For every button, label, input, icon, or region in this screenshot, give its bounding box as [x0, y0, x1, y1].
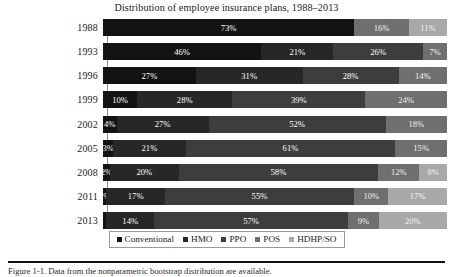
bar-segment[interactable]: 20%: [379, 212, 447, 229]
stacked-bar[interactable]: 4%27%52%18%: [103, 116, 447, 133]
figure-container: Distribution of employee insurance plans…: [0, 0, 453, 277]
bar-segment[interactable]: 4%: [103, 116, 117, 133]
bar-row: 20024%27%52%18%: [0, 116, 453, 133]
year-axis-label: 1993: [0, 46, 103, 57]
bar-segment[interactable]: 3%: [103, 140, 113, 157]
year-axis-label: 1988: [0, 22, 103, 33]
segment-value-label: 20%: [405, 216, 421, 226]
legend-swatch-icon: [255, 237, 260, 242]
bar-segment[interactable]: 58%: [179, 164, 379, 181]
segment-value-label: 27%: [142, 71, 158, 81]
legend-item[interactable]: POS: [255, 234, 280, 244]
legend-swatch-icon: [289, 237, 294, 242]
segment-value-label: 10%: [363, 191, 379, 201]
legend-item[interactable]: PPO: [221, 234, 246, 244]
caption-divider: [8, 261, 445, 263]
bar-segment[interactable]: 31%: [196, 67, 303, 84]
bar-row: 20111%17%55%10%17%: [0, 188, 453, 205]
year-axis-label: 1999: [0, 94, 103, 105]
bar-segment[interactable]: 2%: [103, 164, 110, 181]
segment-value-label: 27%: [155, 119, 171, 129]
bar-row: 201314%57%9%20%: [0, 212, 453, 229]
bar-rows: 198873%16%11%199346%21%26%7%199627%31%28…: [0, 19, 453, 229]
stacked-bar[interactable]: 10%28%39%24%: [103, 91, 447, 108]
bar-segment[interactable]: 15%: [395, 140, 447, 157]
figure-caption: Figure 1-1. Data from the nonparametric …: [8, 266, 445, 277]
legend-swatch-icon: [221, 237, 226, 242]
bar-segment[interactable]: 16%: [354, 19, 409, 36]
bar-row: 199346%21%26%7%: [0, 43, 453, 60]
year-axis-label: 2013: [0, 215, 103, 226]
bar-segment[interactable]: 7%: [423, 43, 447, 60]
segment-value-label: 28%: [177, 95, 193, 105]
segment-value-label: 61%: [283, 143, 299, 153]
segment-value-label: 10%: [112, 95, 128, 105]
bar-segment[interactable]: 57%: [154, 212, 348, 229]
bar-segment[interactable]: 28%: [137, 91, 232, 108]
bar-segment[interactable]: 26%: [333, 43, 422, 60]
year-axis-label: 2011: [0, 191, 103, 202]
bar-segment[interactable]: 27%: [103, 67, 196, 84]
bar-segment[interactable]: 8%: [419, 164, 447, 181]
segment-value-label: 73%: [221, 23, 237, 33]
segment-value-label: 58%: [271, 167, 287, 177]
bar-segment[interactable]: 52%: [209, 116, 386, 133]
stacked-bar[interactable]: 2%20%58%12%8%: [103, 164, 447, 181]
bar-row: 20053%21%61%15%: [0, 140, 453, 157]
bar-segment[interactable]: 14%: [106, 212, 154, 229]
bar-segment[interactable]: 55%: [165, 188, 354, 205]
bar-segment[interactable]: 18%: [386, 116, 447, 133]
legend-item[interactable]: HDHP/SO: [289, 234, 336, 244]
legend-container: ConventionalHMOPPOPOSHDHP/SO: [0, 231, 453, 248]
legend-item[interactable]: HMO: [183, 234, 212, 244]
year-axis-label: 2005: [0, 143, 103, 154]
stacked-bar[interactable]: 73%16%11%: [103, 19, 447, 36]
bar-segment[interactable]: 9%: [348, 212, 379, 229]
bar-segment[interactable]: 27%: [117, 116, 209, 133]
legend-label: HDHP/SO: [297, 234, 336, 244]
stacked-bar[interactable]: 3%21%61%15%: [103, 140, 447, 157]
bar-segment[interactable]: 73%: [103, 19, 354, 36]
segment-value-label: 20%: [136, 167, 152, 177]
segment-value-label: 31%: [241, 71, 257, 81]
bar-segment[interactable]: 10%: [103, 91, 137, 108]
bar-segment[interactable]: 14%: [399, 67, 447, 84]
year-axis-label: 2002: [0, 119, 103, 130]
bar-segment[interactable]: 12%: [378, 164, 419, 181]
bar-row: 198873%16%11%: [0, 19, 453, 36]
bar-segment[interactable]: 61%: [186, 140, 396, 157]
legend-swatch-icon: [183, 237, 188, 242]
bar-segment[interactable]: 39%: [232, 91, 365, 108]
stacked-bar[interactable]: 1%17%55%10%17%: [103, 188, 447, 205]
bar-segment[interactable]: 21%: [261, 43, 333, 60]
stacked-bar[interactable]: 46%21%26%7%: [103, 43, 447, 60]
legend-item[interactable]: Conventional: [117, 234, 175, 244]
segment-value-label: 24%: [398, 95, 414, 105]
bar-segment[interactable]: 17%: [106, 188, 164, 205]
segment-value-label: 8%: [427, 167, 438, 177]
bar-segment[interactable]: 21%: [113, 140, 185, 157]
segment-value-label: 11%: [420, 23, 435, 33]
segment-value-label: 9%: [358, 216, 369, 226]
legend-label: PPO: [229, 234, 246, 244]
segment-value-label: 57%: [243, 216, 259, 226]
segment-value-label: 21%: [142, 143, 158, 153]
legend: ConventionalHMOPPOPOSHDHP/SO: [109, 231, 345, 248]
segment-value-label: 28%: [343, 71, 359, 81]
bar-segment[interactable]: 28%: [303, 67, 399, 84]
bar-segment[interactable]: 17%: [388, 188, 446, 205]
segment-value-label: 2%: [103, 167, 110, 177]
segment-value-label: 7%: [429, 47, 440, 57]
bar-segment[interactable]: 11%: [409, 19, 447, 36]
segment-value-label: 16%: [374, 23, 390, 33]
bar-segment[interactable]: 20%: [110, 164, 179, 181]
bar-segment[interactable]: 24%: [365, 91, 447, 108]
legend-label: HMO: [191, 234, 212, 244]
stacked-bar[interactable]: 14%57%9%20%: [103, 212, 447, 229]
segment-value-label: 15%: [413, 143, 429, 153]
bar-segment[interactable]: 10%: [354, 188, 388, 205]
bar-segment[interactable]: 46%: [103, 43, 261, 60]
legend-label: Conventional: [125, 234, 175, 244]
segment-value-label: 17%: [128, 191, 144, 201]
stacked-bar[interactable]: 27%31%28%14%: [103, 67, 447, 84]
